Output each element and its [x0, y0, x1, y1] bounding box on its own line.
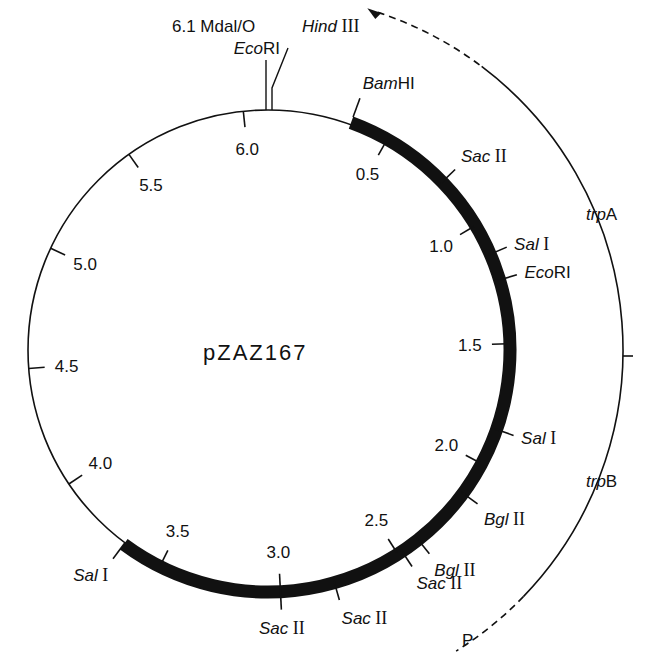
- plasmid-map: 0.51.01.52.02.53.03.54.04.55.05.56.0 Bam…: [0, 0, 662, 659]
- scale-tick-label: 4.0: [89, 454, 113, 473]
- plasmid-map-svg: 0.51.01.52.02.53.03.54.04.55.05.56.0 Bam…: [0, 0, 662, 659]
- scale-tick: [51, 248, 65, 255]
- promoter-label: P: [462, 631, 473, 650]
- scale-tick-label: 3.0: [267, 543, 291, 562]
- trpa-dashed-arc: [378, 12, 482, 66]
- start-label: 6.1 Mdal/O: [172, 17, 255, 36]
- plasmid-name: pZAZ167: [203, 340, 308, 365]
- site-label: BamHI: [363, 74, 415, 93]
- scale-tick-label: 5.5: [139, 176, 163, 195]
- scale-tick-label: 2.0: [434, 436, 458, 455]
- scale-tick: [280, 574, 281, 590]
- scale-tick-label: 0.5: [356, 165, 380, 184]
- origin-labels: 6.1 Mdal/OEcoRIHind III: [172, 16, 359, 110]
- scale-tick: [129, 154, 138, 167]
- site-tick: [280, 590, 281, 610]
- site-label: Sal I: [514, 234, 549, 254]
- scale-tick-label: 4.5: [55, 357, 79, 376]
- site-label: EcoRI: [525, 263, 571, 282]
- site-label: Sal I: [73, 565, 108, 585]
- scale-tick-label: 3.5: [166, 522, 190, 541]
- site-label: Sac II: [342, 608, 388, 628]
- origin-site-label: EcoRI: [234, 39, 280, 58]
- scale-tick: [243, 111, 245, 127]
- scale-tick: [69, 475, 82, 484]
- hindiii-label: Hind III: [302, 16, 359, 36]
- scale-tick-label: 2.5: [365, 511, 389, 530]
- scale-tick-label: 1.5: [458, 336, 482, 355]
- scale-tick-label: 1.0: [429, 237, 453, 256]
- site-label: Sac II: [461, 146, 507, 166]
- scale-tick: [29, 367, 45, 368]
- site-label: Sal I: [521, 428, 556, 448]
- gene-label-trpb: trpB: [586, 472, 617, 491]
- gene-label-trpa: trpA: [586, 205, 618, 224]
- site-label: Sac II: [259, 618, 305, 638]
- site-label: Sac II: [416, 573, 462, 593]
- scale-tick-label: 6.0: [235, 140, 259, 159]
- scale-tick-label: 5.0: [73, 255, 97, 274]
- site-label: Bgl II: [484, 509, 525, 529]
- site-tick: [353, 98, 360, 117]
- arrow-head-icon: [367, 6, 382, 20]
